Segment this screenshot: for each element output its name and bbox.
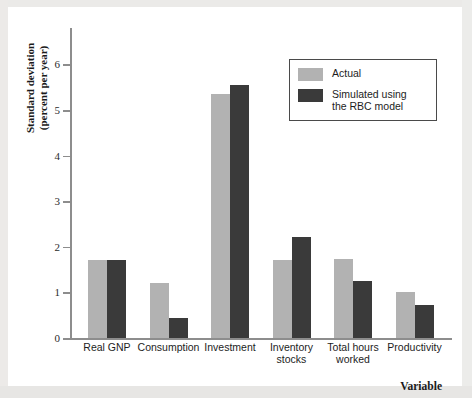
page-edge-left (0, 0, 8, 398)
y-tick-mark (63, 156, 70, 158)
bar-group: Real GNP (88, 28, 126, 338)
y-tick-mark (63, 292, 70, 294)
bar-simulated (169, 318, 188, 339)
y-tick-label: 3 (55, 195, 61, 207)
bar-simulated (107, 260, 126, 338)
page-edge-right (462, 0, 472, 398)
legend-label-simulated: Simulated using the RBC model (332, 88, 407, 112)
bar-simulated (230, 85, 249, 338)
page-edge-top (0, 0, 472, 7)
bar-group: Investment (211, 28, 249, 338)
y-tick-mark (63, 201, 70, 203)
y-tick-label: 1 (55, 286, 61, 298)
legend-swatch-simulated (298, 89, 323, 102)
y-tick-mark (63, 64, 70, 66)
bar-simulated (415, 305, 434, 338)
bar-actual (396, 292, 415, 339)
legend-item-actual: Actual (298, 67, 428, 81)
y-axis-line (70, 28, 72, 338)
legend-swatch-actual (298, 68, 323, 81)
bar-simulated (353, 281, 372, 338)
x-axis-line (70, 338, 452, 340)
y-tick-label: 6 (55, 58, 61, 70)
bar-actual (334, 259, 353, 338)
plot-area: 0123456 Real GNPConsumptionInvestmentInv… (70, 28, 452, 338)
chart-legend: Actual Simulated using the RBC model (289, 59, 437, 121)
y-tick-label: 0 (55, 332, 61, 344)
legend-label-actual: Actual (332, 67, 361, 79)
y-axis-title: Standard deviation (percent per year) (24, 8, 50, 168)
y-tick-label: 4 (55, 150, 61, 162)
bar-actual (88, 260, 107, 338)
y-tick-mark (63, 247, 70, 249)
y-tick-mark (63, 338, 70, 340)
y-tick-label: 5 (55, 104, 61, 116)
legend-item-simulated: Simulated using the RBC model (298, 88, 428, 112)
x-axis-title: Variable (400, 380, 442, 392)
chart-figure: 0123456 Real GNPConsumptionInvestmentInv… (0, 0, 472, 398)
y-tick-mark (63, 110, 70, 112)
bar-simulated (292, 237, 311, 338)
y-tick-label: 2 (55, 241, 61, 253)
bar-actual (150, 283, 169, 338)
bar-actual (211, 94, 230, 338)
bar-group: Consumption (150, 28, 188, 338)
x-category-label: Productivity (369, 342, 461, 354)
bar-actual (273, 260, 292, 338)
